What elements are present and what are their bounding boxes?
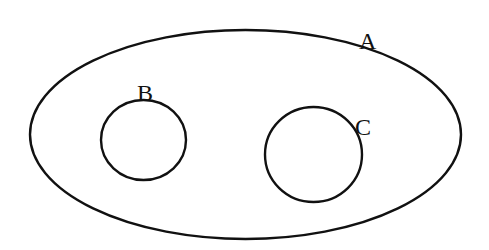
- set-a-ellipse: [30, 30, 461, 239]
- set-a-label: A: [359, 28, 377, 54]
- set-c-label: C: [355, 114, 371, 140]
- set-c-circle: [265, 107, 362, 202]
- set-b-label: B: [137, 80, 153, 106]
- set-b-circle: [101, 100, 186, 180]
- venn-diagram: A B C: [0, 0, 489, 250]
